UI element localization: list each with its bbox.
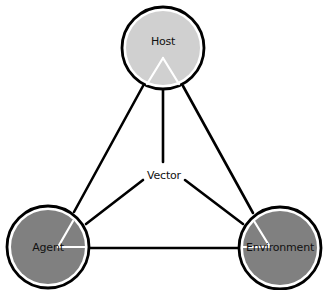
- node-label-agent: Agent: [32, 241, 64, 254]
- edge-vector-environment: [185, 180, 243, 224]
- edge-vector-agent: [86, 180, 143, 224]
- edge-host-environment: [183, 86, 253, 213]
- edge-host-agent: [74, 86, 143, 212]
- node-host: [122, 7, 204, 89]
- node-label-environment: Environment: [246, 241, 314, 254]
- center-label-vector: Vector: [147, 169, 181, 182]
- node-label-host: Host: [151, 35, 175, 48]
